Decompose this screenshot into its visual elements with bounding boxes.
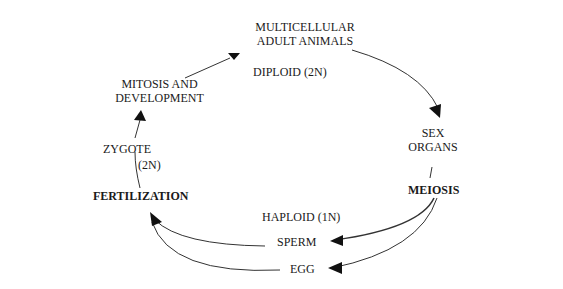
node-sperm: SPERM bbox=[277, 235, 316, 249]
arrowhead-sexorgans-icon bbox=[429, 104, 441, 118]
node-sex-organs-line1: SEX bbox=[408, 126, 458, 140]
node-fertilization: FERTILIZATION bbox=[93, 189, 188, 203]
node-egg: EGG bbox=[290, 262, 315, 276]
arrow-sperm-to-fertilization bbox=[155, 220, 265, 246]
line-sexorgans-to-meiosis bbox=[430, 167, 432, 178]
label-zygote-ploidy: (2N) bbox=[138, 158, 161, 172]
label-diploid: DIPLOID (2N) bbox=[253, 65, 327, 79]
node-sex-organs-line2: ORGANS bbox=[408, 140, 458, 154]
node-adult-line2: ADULT ANIMALS bbox=[250, 34, 360, 48]
node-sex-organs: SEX ORGANS bbox=[408, 126, 458, 154]
node-zygote: ZYGOTE bbox=[103, 142, 151, 156]
node-mitosis-line2: DEVELOPMENT bbox=[112, 91, 207, 105]
arrowhead-mitosis-icon bbox=[134, 110, 146, 121]
arrow-meiosis-to-sperm bbox=[335, 198, 434, 240]
arrow-adult-to-sexorgans bbox=[352, 50, 438, 108]
node-mitosis-line1: MITOSIS AND bbox=[112, 77, 207, 91]
arrow-mitosis-to-adult bbox=[185, 58, 230, 78]
label-haploid: HAPLOID (1N) bbox=[262, 210, 340, 224]
node-adult-line1: MULTICELLULAR bbox=[250, 20, 360, 34]
node-adult-animals: MULTICELLULAR ADULT ANIMALS bbox=[250, 20, 360, 48]
arrowhead-adult-icon bbox=[228, 53, 240, 60]
node-mitosis-development: MITOSIS AND DEVELOPMENT bbox=[112, 77, 207, 105]
node-meiosis: MEIOSIS bbox=[408, 183, 459, 197]
arrowhead-egg-icon bbox=[328, 262, 342, 274]
arrow-zygote-to-mitosis bbox=[135, 120, 140, 138]
arrow-meiosis-to-egg bbox=[332, 198, 437, 268]
arrowhead-sperm-icon bbox=[330, 235, 343, 246]
